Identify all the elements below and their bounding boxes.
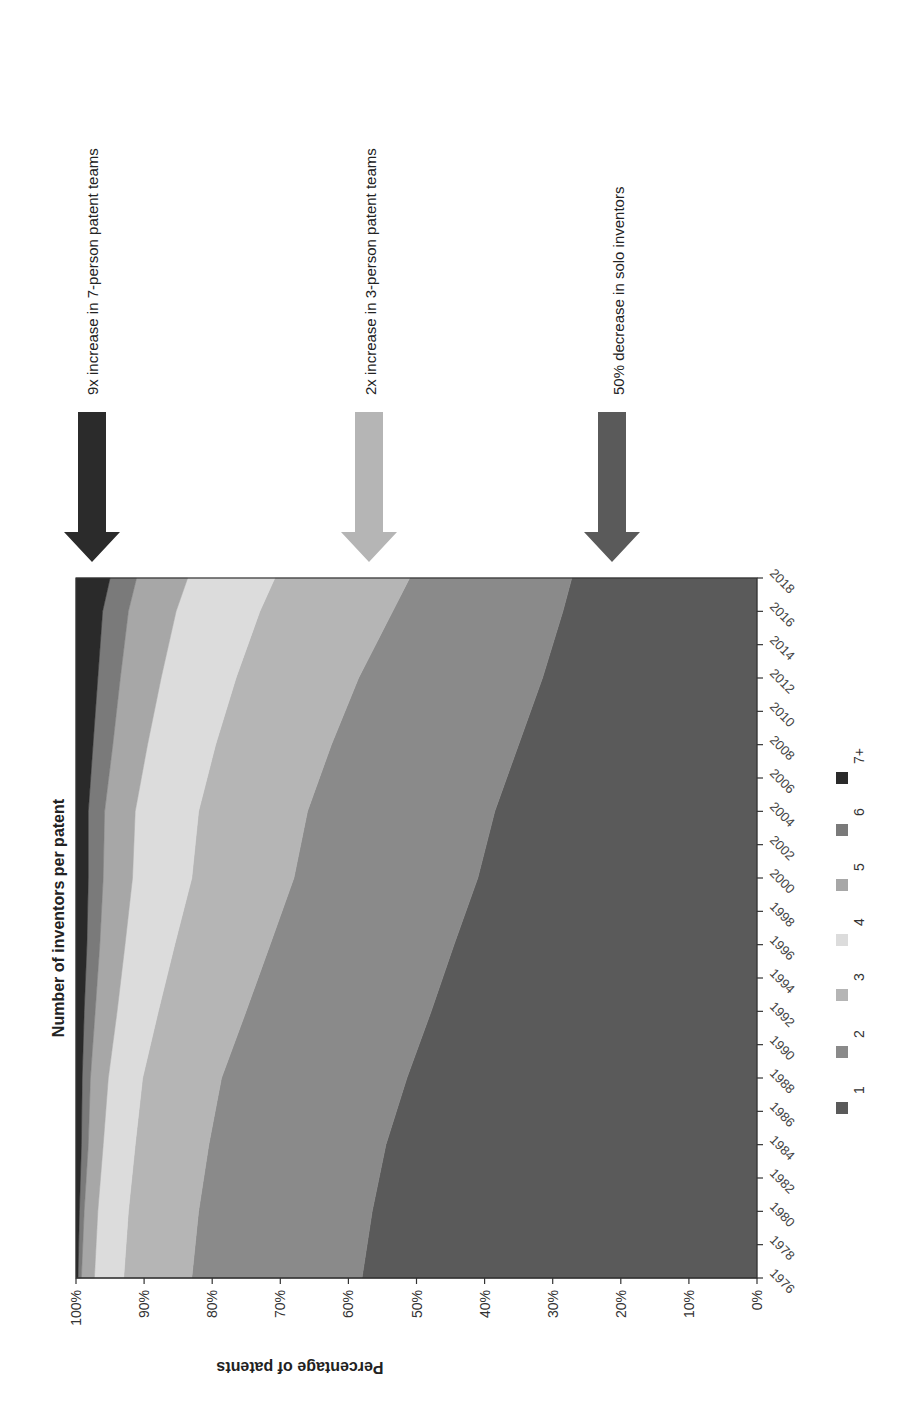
- annotation-7plus-label: 9x increase in 7-person patent teams: [84, 148, 101, 395]
- pct-tick-label: 100%: [68, 1290, 84, 1326]
- percentage-axis: 0%10%20%30%40%50%60%70%80%90%100%: [68, 1278, 765, 1326]
- legend-label: 1: [851, 1086, 867, 1094]
- year-tick-label: 2006: [767, 766, 798, 797]
- rotated-chart-page: 0%10%20%30%40%50%60%70%80%90%100% 197619…: [0, 0, 897, 1422]
- pct-tick-label: 50%: [409, 1290, 425, 1318]
- year-tick-label: 1984: [767, 1132, 798, 1163]
- legend-swatch-3: [836, 989, 848, 1001]
- pct-tick-label: 30%: [545, 1290, 561, 1318]
- pct-tick-label: 0%: [749, 1290, 765, 1310]
- pct-tick-label: 10%: [681, 1290, 697, 1318]
- year-tick-label: 2010: [767, 699, 798, 730]
- year-tick-label: 1988: [767, 1066, 798, 1097]
- pct-tick-label: 70%: [272, 1290, 288, 1318]
- year-tick-label: 1976: [767, 1266, 798, 1297]
- annotation-arrow-icon: [341, 412, 397, 562]
- legend-label: 7+: [851, 748, 867, 764]
- legend-swatch-6: [836, 824, 848, 836]
- year-tick-label: 2008: [767, 732, 798, 763]
- year-tick-label: 1992: [767, 999, 798, 1030]
- legend-label: 2: [851, 1030, 867, 1038]
- annotation-arrow-icon: [64, 412, 120, 562]
- legend-label: 4: [851, 918, 867, 926]
- legend-label: 5: [851, 863, 867, 871]
- y-axis-title: Percentage of patents: [216, 1359, 383, 1376]
- year-tick-label: 1996: [767, 932, 798, 963]
- year-tick-label: 2018: [767, 566, 798, 597]
- legend-swatch-1: [836, 1102, 848, 1114]
- pct-tick-label: 60%: [340, 1290, 356, 1318]
- legend-swatch-5: [836, 879, 848, 891]
- chart-title: Number of inventors per patent: [50, 798, 67, 1037]
- year-tick-label: 1994: [767, 966, 798, 997]
- pct-tick-label: 20%: [613, 1290, 629, 1318]
- legend-swatch-2: [836, 1046, 848, 1058]
- year-tick-label: 2004: [767, 799, 798, 830]
- year-axis: 1976197819801982198419861988199019921994…: [757, 566, 798, 1297]
- annotation-solo-label: 50% decrease in solo inventors: [610, 187, 627, 395]
- stacked-area-chart: 0%10%20%30%40%50%60%70%80%90%100% 197619…: [0, 0, 897, 1422]
- annotation-arrows: [64, 412, 640, 562]
- year-tick-label: 1978: [767, 1232, 798, 1263]
- year-tick-label: 2016: [767, 599, 798, 630]
- legend-swatch-4: [836, 934, 848, 946]
- pct-tick-label: 90%: [136, 1290, 152, 1318]
- legend-label: 6: [851, 808, 867, 816]
- year-tick-label: 2012: [767, 666, 798, 697]
- year-tick-label: 2014: [767, 632, 798, 663]
- stacked-areas: [76, 578, 757, 1278]
- year-tick-label: 2000: [767, 866, 798, 897]
- year-tick-label: 1998: [767, 899, 798, 930]
- annotation-3person-label: 2x increase in 3-person patent teams: [362, 148, 379, 395]
- pct-tick-label: 80%: [204, 1290, 220, 1318]
- year-tick-label: 2002: [767, 832, 798, 863]
- year-tick-label: 1982: [767, 1166, 798, 1197]
- year-tick-label: 1990: [767, 1032, 798, 1063]
- year-tick-label: 1986: [767, 1099, 798, 1130]
- annotation-arrow-icon: [584, 412, 640, 562]
- pct-tick-label: 40%: [477, 1290, 493, 1318]
- legend-label: 3: [851, 973, 867, 981]
- legend-swatch-7plus: [836, 772, 848, 784]
- year-tick-label: 1980: [767, 1199, 798, 1230]
- legend: 1234567+: [836, 748, 867, 1114]
